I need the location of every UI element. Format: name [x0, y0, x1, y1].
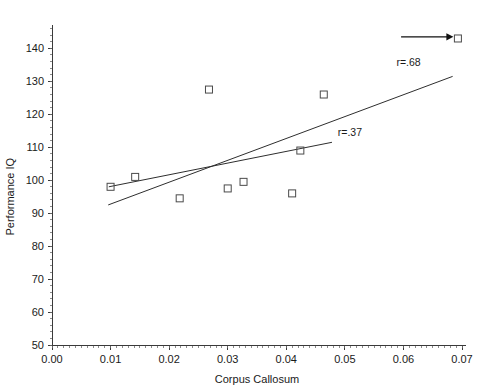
regression-line-regression-with-outlier — [108, 76, 452, 205]
scatter-plot-figure: 5060708090100110120130140 0.000.010.020.… — [0, 0, 488, 392]
y-tick-label-120: 120 — [26, 108, 44, 120]
x-tick-label-0.01: 0.01 — [100, 353, 121, 365]
y-tick-label-100: 100 — [26, 174, 44, 186]
data-point-5 — [240, 178, 247, 185]
y-tick-label-80: 80 — [32, 240, 44, 252]
x-axis-tick-labels: 0.000.010.020.030.040.050.060.07 — [41, 353, 472, 365]
x-tick-label-0.07: 0.07 — [451, 353, 472, 365]
x-axis-title: Corpus Callosum — [215, 373, 299, 385]
regression-line-regression-without-outlier — [109, 142, 332, 186]
plot-canvas: 5060708090100110120130140 0.000.010.020.… — [0, 0, 488, 392]
data-point-4 — [224, 185, 231, 192]
regression-lines — [108, 76, 452, 205]
y-tick-label-70: 70 — [32, 273, 44, 285]
data-point-1 — [132, 173, 139, 180]
chart-annotations: r=.68 r=.37 — [338, 33, 454, 137]
outlier-arrow-head — [446, 33, 453, 40]
data-point-9 — [454, 35, 461, 42]
x-tick-label-0.06: 0.06 — [393, 353, 414, 365]
y-tick-label-130: 130 — [26, 75, 44, 87]
y-tick-label-50: 50 — [32, 339, 44, 351]
y-axis-tick-labels: 5060708090100110120130140 — [26, 42, 44, 351]
x-tick-label-0.04: 0.04 — [276, 353, 297, 365]
data-point-2 — [176, 195, 183, 202]
data-point-8 — [320, 91, 327, 98]
r-value-label-068: r=.68 — [396, 56, 420, 68]
y-tick-label-60: 60 — [32, 306, 44, 318]
r-value-label-037: r=.37 — [338, 126, 362, 138]
axis-minor-ticks — [50, 29, 462, 348]
data-point-6 — [289, 190, 296, 197]
data-point-3 — [205, 86, 212, 93]
x-tick-label-0.00: 0.00 — [41, 353, 62, 365]
y-axis-ticks — [48, 48, 52, 345]
y-axis-title: Performance IQ — [4, 157, 16, 235]
x-tick-label-0.05: 0.05 — [334, 353, 355, 365]
x-tick-label-0.03: 0.03 — [217, 353, 238, 365]
x-tick-label-0.02: 0.02 — [158, 353, 179, 365]
y-tick-label-140: 140 — [26, 42, 44, 54]
y-tick-label-90: 90 — [32, 207, 44, 219]
y-tick-label-110: 110 — [26, 141, 44, 153]
